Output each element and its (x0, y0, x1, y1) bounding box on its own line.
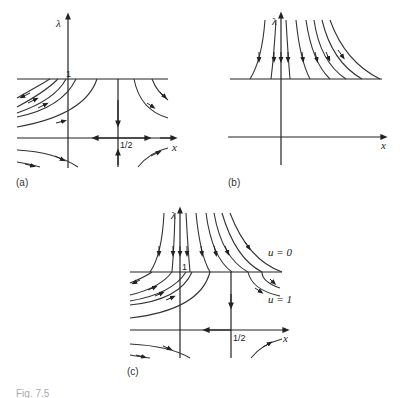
figure-canvas: λ 1 x 1/2 (a) (0, 0, 418, 398)
arrow (56, 121, 64, 123)
figure-caption: Fig. 7.5 (16, 388, 50, 398)
curve-label-u0: u = 0 (268, 246, 292, 258)
arrow (245, 242, 249, 248)
lambda-axis-label: λ (55, 17, 61, 29)
trajectory (222, 213, 262, 272)
panel-a: λ 1 x 1/2 (a) (16, 16, 177, 188)
arrow (338, 50, 343, 57)
lambda-one-tick: 1 (66, 69, 71, 79)
x-half-tick: 1/2 (120, 140, 133, 150)
trajectory (130, 272, 152, 283)
panel-b-label: (b) (228, 177, 240, 188)
trajectory (230, 213, 282, 272)
arrow (263, 343, 270, 347)
panel-c-label: (c) (127, 366, 139, 377)
trajectory (250, 20, 265, 79)
panel-b: λ x (b) (228, 15, 386, 188)
x-half-tick: 1/2 (233, 333, 246, 343)
trajectory (314, 20, 346, 79)
trajectory (271, 20, 276, 79)
trajectory (286, 20, 290, 79)
x-axis-label: x (171, 141, 177, 153)
trajectory (214, 213, 248, 272)
trajectory (251, 339, 282, 358)
trajectory (322, 20, 362, 79)
panel-a-label: (a) (16, 177, 28, 188)
arrow (166, 297, 173, 300)
trajectory (306, 20, 330, 79)
x-axis-label: x (282, 332, 288, 344)
trajectory (206, 213, 232, 272)
arrow (201, 246, 202, 254)
trajectory (130, 272, 172, 295)
trajectory (138, 148, 168, 167)
lambda-one-tick: 1 (182, 262, 187, 272)
panel-c: λ 1 x 1/2 u = 0 u = 1 (127, 209, 292, 377)
trajectory (134, 79, 168, 118)
arrow (38, 104, 46, 108)
trajectory (130, 272, 186, 301)
trajectory (172, 213, 175, 272)
trajectory (330, 20, 380, 79)
trajectory (17, 79, 50, 98)
trajectory (152, 79, 168, 100)
curve-label-u1: u = 1 (268, 293, 292, 305)
x-axis-label: x (380, 139, 386, 151)
arrow (160, 92, 165, 97)
trajectory (17, 79, 58, 107)
arrow (55, 156, 63, 160)
arrow (270, 279, 274, 283)
trajectory (150, 213, 164, 272)
